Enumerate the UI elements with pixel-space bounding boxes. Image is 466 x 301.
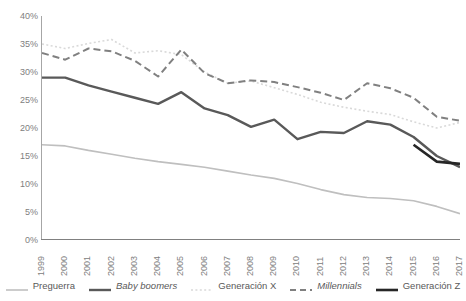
- series-line: [42, 145, 460, 214]
- x-axis-tick-label: 2008: [245, 256, 255, 276]
- y-axis-tick-label: 15%: [2, 152, 38, 161]
- legend-item[interactable]: Baby boomers: [89, 281, 177, 291]
- x-axis-tick-label: 2001: [82, 256, 92, 276]
- x-axis-tick-label: 2016: [431, 256, 441, 276]
- legend-item[interactable]: Generación Z: [376, 281, 461, 291]
- x-axis-tick-label: 2011: [315, 257, 325, 276]
- series-line: [414, 145, 460, 164]
- chart-legend: PreguerraBaby boomersGeneración XMillenn…: [0, 276, 466, 296]
- x-axis-tick-label: 2000: [59, 256, 69, 276]
- legend-item[interactable]: Preguerra: [6, 281, 75, 291]
- y-axis: 0%5%10%15%20%25%30%35%40%: [0, 0, 38, 250]
- x-axis-tick-label: 2003: [129, 256, 139, 276]
- x-axis-tick-label: 2015: [408, 256, 418, 276]
- legend-label: Generación X: [218, 281, 276, 291]
- y-axis-tick-label: 20%: [2, 124, 38, 133]
- x-axis-tick-label: 2002: [106, 256, 116, 276]
- legend-item[interactable]: Generación X: [191, 281, 276, 291]
- x-axis-tick-label: 2007: [222, 256, 232, 276]
- y-axis-tick-label: 0%: [2, 236, 38, 245]
- x-axis-tick-label: 2006: [199, 256, 209, 276]
- legend-label: Generación Z: [403, 281, 461, 291]
- x-axis-tick-label: 2012: [338, 256, 348, 276]
- series-line: [42, 40, 460, 128]
- y-axis-tick-label: 30%: [2, 68, 38, 77]
- y-axis-tick-label: 5%: [2, 208, 38, 217]
- y-axis-tick-label: 40%: [2, 12, 38, 21]
- y-axis-tick-label: 35%: [2, 40, 38, 49]
- x-axis: 1999200020012002200320042005200620072008…: [42, 242, 460, 278]
- line-chart: 0%5%10%15%20%25%30%35%40% 19992000200120…: [0, 0, 466, 301]
- y-axis-tick-label: 10%: [2, 180, 38, 189]
- legend-label: Baby boomers: [116, 281, 177, 291]
- x-axis-tick-label: 2005: [175, 256, 185, 276]
- x-axis-tick-label: 2010: [291, 256, 301, 276]
- x-axis-tick-label: 2009: [268, 256, 278, 276]
- legend-label: Preguerra: [33, 281, 75, 291]
- plot-area: [42, 16, 460, 240]
- x-axis-tick-label: 2017: [454, 256, 464, 276]
- series-lines: [42, 16, 460, 240]
- x-axis-tick-label: 2004: [152, 256, 162, 276]
- x-axis-tick-label: 2014: [384, 256, 394, 276]
- x-axis-tick-label: 2013: [361, 256, 371, 276]
- series-line: [42, 48, 460, 120]
- y-axis-tick-label: 25%: [2, 96, 38, 105]
- legend-label: Millennials: [317, 281, 361, 291]
- x-axis-tick-label: 1999: [36, 256, 46, 276]
- legend-item[interactable]: Millennials: [290, 281, 361, 291]
